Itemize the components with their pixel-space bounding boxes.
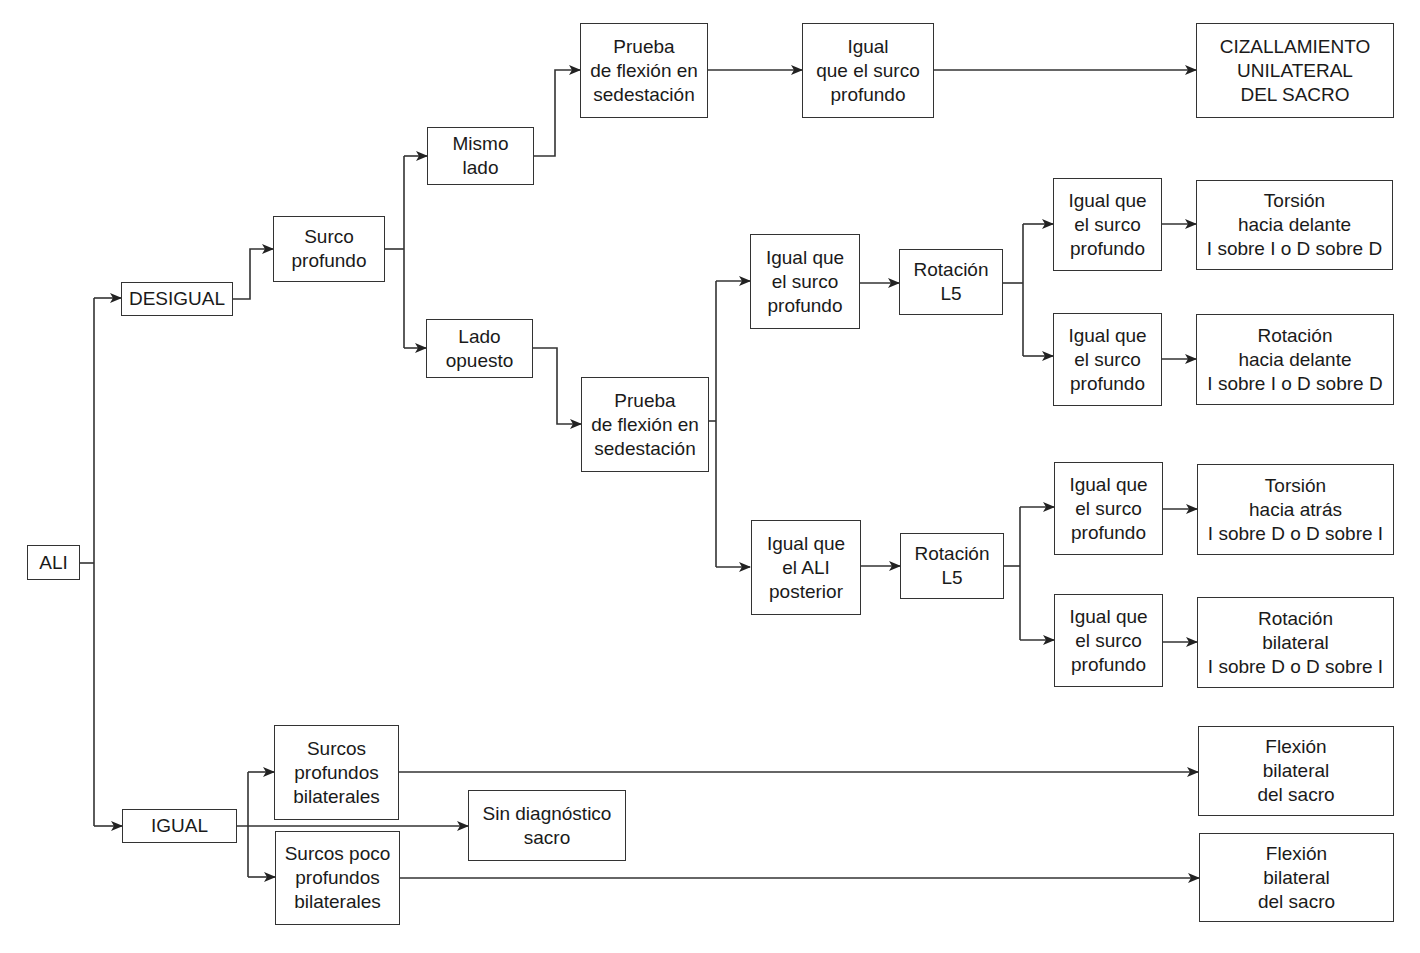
node-flexion-bilateral-2: Flexión bilateral del sacro [1199, 833, 1394, 922]
node-cizallamiento: CIZALLAMIENTO UNILATERAL DEL SACRO [1196, 23, 1394, 118]
node-rotacion-l5-a: Rotación L5 [899, 249, 1003, 315]
node-igual-surco-a1: Igual que el surco profundo [1053, 178, 1162, 271]
node-torsion-delante: Torsión hacia delante I sobre I o D sobr… [1196, 180, 1393, 270]
node-prueba-flexion-2: Prueba de flexión en sedestación [581, 377, 709, 472]
node-igual-surco-b2: Igual que el surco profundo [1054, 594, 1163, 687]
node-surcos-profundos-bilaterales: Surcos profundos bilaterales [274, 725, 399, 820]
node-igual-ali-posterior: Igual que el ALI posterior [751, 520, 861, 615]
node-ali: ALI [27, 545, 80, 580]
node-prueba-flexion-1: Prueba de flexión en sedestación [580, 23, 708, 118]
node-igual-surco-top: Igual que el surco profundo [802, 23, 934, 118]
node-surcos-poco-profundos: Surcos poco profundos bilaterales [275, 831, 400, 925]
sacral-diagnosis-flowchart: ALI DESIGUAL Surco profundo Mismo lado L… [0, 0, 1420, 953]
node-mismo-lado: Mismo lado [427, 127, 534, 185]
node-sin-diagnostico-sacro: Sin diagnóstico sacro [468, 790, 626, 861]
node-rotacion-l5-b: Rotación L5 [900, 533, 1004, 599]
node-igual-surco-a2: Igual que el surco profundo [1053, 313, 1162, 406]
node-rotacion-delante: Rotación hacia delante I sobre I o D sob… [1196, 314, 1394, 405]
node-surco-profundo: Surco profundo [273, 216, 385, 282]
node-lado-opuesto: Lado opuesto [426, 319, 533, 378]
node-desigual: DESIGUAL [121, 282, 233, 316]
node-igual-surco-mid: Igual que el surco profundo [750, 234, 860, 329]
node-torsion-atras: Torsión hacia atrás I sobre D o D sobre … [1197, 464, 1394, 555]
node-rotacion-bilateral: Rotación bilateral I sobre D o D sobre I [1197, 597, 1394, 688]
node-igual: IGUAL [122, 809, 237, 843]
node-igual-surco-b1: Igual que el surco profundo [1054, 462, 1163, 555]
node-flexion-bilateral-1: Flexión bilateral del sacro [1198, 726, 1394, 816]
